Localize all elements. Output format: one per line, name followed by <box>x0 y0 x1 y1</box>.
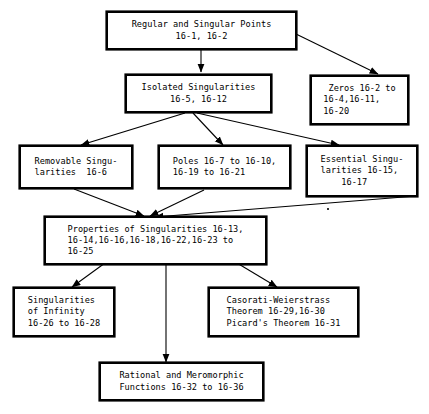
edge-properties-to-infinity <box>72 263 105 287</box>
node-regular-singular-points[interactable]: Regular and Singular Points 16-1, 16-2 <box>107 12 296 49</box>
node-zeros[interactable]: Zeros 16-2 to 16-4,16-11, 16-20 <box>311 76 408 124</box>
edge-properties-to-casorati <box>237 263 277 287</box>
scan-artifact-speck <box>327 208 329 210</box>
flowchart-canvas: Regular and Singular Points 16-1, 16-2 I… <box>0 0 429 414</box>
edge-isolated-to-removable <box>81 113 185 145</box>
node-label: Regular and Singular Points 16-1, 16-2 <box>132 19 272 41</box>
node-isolated-singularities[interactable]: Isolated Singularities 16-5, 16-12 <box>126 75 271 112</box>
node-label: Casorati-Weierstrass Theorem 16-29,16-30… <box>227 295 341 329</box>
node-label: Removable Singu- larities 16-6 <box>35 156 118 178</box>
node-label: Singularities of Infinity 16-26 to 16-28 <box>28 295 100 329</box>
node-label: Rational and Meromorphic Functions 16-32… <box>119 370 243 392</box>
edge-essential-to-properties <box>155 196 416 217</box>
node-label: Zeros 16-2 to 16-4,16-11, 16-20 <box>323 83 395 117</box>
node-label: Essential Singu- larities 16-15, 16-17 <box>321 154 404 188</box>
node-label: Properties of Singularities 16-13, 16-14… <box>68 224 244 258</box>
node-casorati-weierstrass[interactable]: Casorati-Weierstrass Theorem 16-29,16-30… <box>209 288 358 336</box>
node-label: Isolated Singularities 16-5, 16-12 <box>142 82 256 104</box>
node-removable-singularities[interactable]: Removable Singu- larities 16-6 <box>20 146 132 188</box>
edge-layer <box>0 0 429 414</box>
node-singularities-of-infinity[interactable]: Singularities of Infinity 16-26 to 16-28 <box>14 288 114 336</box>
node-properties-of-singularities[interactable]: Properties of Singularities 16-13, 16-14… <box>45 217 266 264</box>
edge-removable-to-properties <box>74 189 144 216</box>
edge-regular-to-zeros <box>296 34 378 74</box>
node-label: Poles 16-7 to 16-10, 16-19 to 16-21 <box>173 156 276 178</box>
edge-poles-to-properties <box>150 190 204 216</box>
node-rational-meromorphic[interactable]: Rational and Meromorphic Functions 16-32… <box>100 363 263 400</box>
node-poles[interactable]: Poles 16-7 to 16-10, 16-19 to 16-21 <box>159 146 290 188</box>
node-essential-singularities[interactable]: Essential Singu- larities 16-15, 16-17 <box>307 146 417 196</box>
